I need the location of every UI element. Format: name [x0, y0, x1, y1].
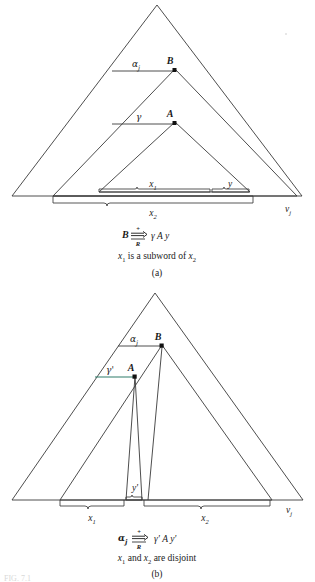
brace-label-y-a: y: [227, 179, 233, 189]
node-label-a-b: A: [127, 362, 135, 373]
node-dot-b-b: [160, 344, 164, 348]
figure-container: B A αj γ x1 y x2 vj B + R γ A y: [0, 0, 315, 582]
figure-svg: B A αj γ x1 y x2 vj B + R γ A y: [0, 0, 315, 582]
middle-triangle-a: [53, 69, 297, 196]
edge-label-alpha-j-b: αj: [130, 334, 138, 347]
inner-triangle-b: [126, 376, 142, 500]
node-dot-a-b: [133, 375, 137, 379]
derivation-left-b: αj: [118, 533, 128, 546]
brace-label-y-prime-b: y': [131, 483, 139, 493]
derivation-plus-a: +: [136, 225, 140, 232]
node-label-b-a: B: [166, 55, 174, 66]
node-dot-a-a: [173, 121, 177, 125]
brace-y-prime-b: [126, 495, 142, 500]
derivation-right-b: γ' A y': [154, 534, 177, 544]
middle-triangle-b: [60, 345, 272, 500]
b-descent-edge-b: [148, 347, 162, 500]
edge-label-gamma-prime-b: γ': [106, 365, 114, 375]
brace-label-x2-b: x2: [200, 513, 209, 525]
brace-label-x2-a: x2: [148, 208, 157, 220]
derivation-formula-a: B + R γ A y: [121, 225, 170, 247]
panel-label-b: (b): [151, 569, 162, 580]
derivation-formula-b: αj + R γ' A y': [118, 528, 177, 550]
edge-label-gamma-a: γ: [136, 112, 142, 122]
derivation-left-a: B: [121, 229, 129, 240]
caption-a: x1 is a subword of x2: [117, 251, 196, 263]
panel-a: B A αj γ x1 y x2 vj B + R γ A y: [12, 5, 302, 279]
brace-x2-b: [144, 500, 270, 509]
brace-label-x1-a: x1: [148, 179, 156, 191]
scan-speck-a: [285, 33, 287, 35]
brace-x1-b: [60, 500, 124, 509]
node-dot-b-a: [173, 68, 177, 72]
derivation-plus-b: +: [137, 528, 141, 535]
caption-b: x1 and x2 are disjoint: [117, 553, 197, 565]
node-label-a-a: A: [166, 108, 174, 119]
edge-label-alpha-j-a: αj: [132, 59, 140, 72]
baseline-label-vj-b: vj: [286, 505, 292, 517]
figure-number: FIG. 7.1: [4, 574, 31, 582]
outer-triangle-a: [12, 5, 302, 196]
derivation-R-b: R: [136, 543, 142, 550]
panel-b: B A αj γ' y' x1 x2 vj αj + R γ' A y' x1 …: [12, 293, 303, 580]
derivation-R-a: R: [135, 240, 141, 247]
brace-x2-a: [53, 196, 253, 206]
brace-label-x1-b: x1: [87, 513, 95, 525]
derivation-right-a: γ A y: [151, 231, 170, 241]
node-label-b-b: B: [154, 331, 162, 342]
panel-label-a: (a): [152, 268, 163, 279]
baseline-label-vj-a: vj: [285, 204, 291, 216]
